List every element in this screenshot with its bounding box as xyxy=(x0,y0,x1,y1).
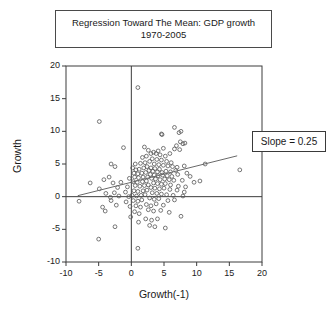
data-point xyxy=(88,181,92,185)
data-point xyxy=(149,186,153,190)
y-tick-label: 0 xyxy=(32,191,60,201)
data-point xyxy=(145,188,149,192)
y-axis-label: Growth xyxy=(11,126,23,186)
data-point xyxy=(143,145,147,149)
data-point xyxy=(146,148,150,152)
data-point xyxy=(112,191,116,195)
data-point xyxy=(163,177,167,181)
data-point xyxy=(107,175,111,179)
data-point xyxy=(131,199,135,203)
data-point xyxy=(151,169,155,173)
data-point xyxy=(171,165,175,169)
slope-annotation-box: Slope = 0.25 xyxy=(252,131,326,152)
data-point xyxy=(168,152,172,156)
data-point xyxy=(132,189,136,193)
data-point xyxy=(163,182,167,186)
data-point xyxy=(169,183,173,187)
data-point xyxy=(182,164,186,168)
y-tick-label: -5 xyxy=(32,223,60,233)
data-point xyxy=(126,185,130,189)
data-point xyxy=(150,191,154,195)
data-point xyxy=(165,159,169,163)
data-point xyxy=(136,86,140,90)
data-point xyxy=(146,208,150,212)
y-tick-label: 5 xyxy=(32,158,60,168)
data-point xyxy=(166,199,170,203)
data-point xyxy=(135,194,139,198)
data-point xyxy=(173,126,177,130)
x-tick-label: -5 xyxy=(87,268,111,278)
data-point xyxy=(167,210,171,214)
data-point xyxy=(163,154,167,158)
data-point xyxy=(176,173,180,177)
data-point xyxy=(179,214,183,218)
y-tick-label: -10 xyxy=(32,256,60,266)
data-point xyxy=(132,171,136,175)
data-point xyxy=(157,163,161,167)
data-point xyxy=(153,186,157,190)
data-point xyxy=(159,158,163,162)
data-point xyxy=(173,147,177,151)
data-point xyxy=(162,186,166,190)
data-point xyxy=(166,164,170,168)
data-point xyxy=(156,182,160,186)
data-point xyxy=(77,199,81,203)
data-point xyxy=(122,146,126,150)
data-point xyxy=(113,225,117,229)
data-point xyxy=(158,167,162,171)
data-point xyxy=(159,208,163,212)
data-point xyxy=(129,215,133,219)
data-point xyxy=(157,197,161,201)
data-point xyxy=(159,182,163,186)
data-point xyxy=(170,175,174,179)
data-point xyxy=(140,171,144,175)
data-point xyxy=(136,199,140,203)
x-tick-label: 0 xyxy=(119,268,143,278)
y-tick-label: 15 xyxy=(32,93,60,103)
data-point xyxy=(161,146,165,150)
data-point xyxy=(159,192,163,196)
data-point xyxy=(165,193,169,197)
data-point xyxy=(158,153,162,157)
data-point xyxy=(104,192,108,196)
data-point xyxy=(141,156,145,160)
data-point xyxy=(127,176,131,180)
data-point xyxy=(136,190,140,194)
data-point xyxy=(155,192,159,196)
data-point xyxy=(137,220,141,224)
data-point xyxy=(153,167,157,171)
data-point xyxy=(141,175,145,179)
data-point xyxy=(178,140,182,144)
plot-frame xyxy=(66,66,262,262)
data-point xyxy=(103,209,107,213)
data-point xyxy=(173,198,177,202)
x-tick-label: 15 xyxy=(217,268,241,278)
data-point xyxy=(152,209,156,213)
data-point xyxy=(156,170,160,174)
x-axis-label: Growth(-1) xyxy=(66,288,262,300)
data-point xyxy=(117,194,121,198)
data-point xyxy=(158,178,162,182)
data-point xyxy=(152,162,156,166)
data-point xyxy=(144,154,148,158)
data-point xyxy=(154,202,158,206)
data-point xyxy=(154,177,158,181)
data-point xyxy=(155,158,159,162)
data-point xyxy=(158,187,162,191)
data-point xyxy=(114,203,118,207)
data-point xyxy=(133,162,137,166)
x-tick-label: 10 xyxy=(185,268,209,278)
data-point xyxy=(137,212,141,216)
data-point xyxy=(165,174,169,178)
data-point xyxy=(133,184,137,188)
slope-annotation-label: Slope = 0.25 xyxy=(261,136,317,147)
data-point xyxy=(143,161,147,165)
data-point xyxy=(161,163,165,167)
data-point xyxy=(113,165,117,169)
data-point xyxy=(182,190,186,194)
data-point xyxy=(150,218,154,222)
data-point xyxy=(188,175,192,179)
data-point xyxy=(152,181,156,185)
data-point xyxy=(138,184,142,188)
data-point xyxy=(133,210,137,214)
